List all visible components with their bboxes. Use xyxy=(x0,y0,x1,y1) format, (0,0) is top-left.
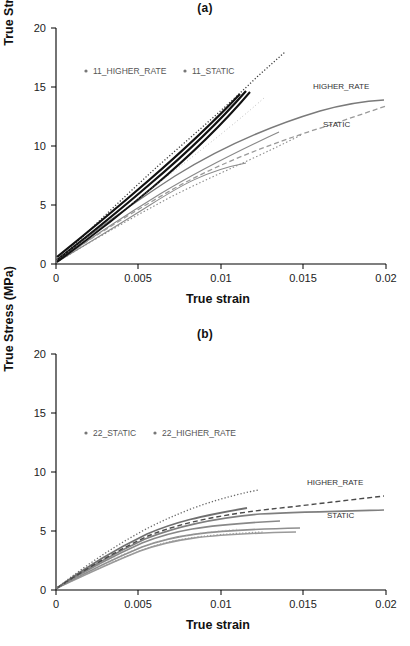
panel-b-annotation-static: STATIC xyxy=(327,511,354,520)
panel-a-legend-label-1: 11_HIGHER_RATE xyxy=(93,66,167,76)
panel-b-title: (b) xyxy=(0,326,410,342)
series-22-static-5 xyxy=(57,532,263,588)
panel-a-ylabel: True Stress (MPa) xyxy=(2,0,16,68)
series-22-higher-rate-1 xyxy=(57,496,384,588)
panel-a-plot: True Stress (MPa) 0 5 10 15 20 xyxy=(0,16,410,306)
panel-b-ytick-0: 0 xyxy=(40,584,46,596)
panel-b-xlabel: True strain xyxy=(0,618,410,632)
series-22-static-3 xyxy=(57,528,300,588)
panel-b-ytick-10: 10 xyxy=(34,466,46,478)
panel-b-legend-label-2: 22_HIGHER_RATE xyxy=(162,428,236,438)
panel-a-annotation-static: STATIC xyxy=(323,120,350,129)
panel-b-xtick-002: 0.02 xyxy=(375,598,396,610)
panel-b-xtick-001: 0.01 xyxy=(210,598,231,610)
series-11-static-1 xyxy=(57,106,386,262)
panel-a-xtick-001: 0.01 xyxy=(210,272,231,284)
panel-b-legend-label-1: 22_STATIC xyxy=(93,428,136,438)
panel-a-xtick-002: 0.02 xyxy=(375,272,396,284)
panel-a-legend-marker-1 xyxy=(84,69,87,72)
panel-a-ytick-10: 10 xyxy=(34,140,46,152)
panel-b-legend-marker-1 xyxy=(84,431,87,434)
panel-a-ytick-5: 5 xyxy=(40,199,46,211)
panel-b-series-group xyxy=(57,490,384,588)
panel-b-ytick-15: 15 xyxy=(34,407,46,419)
panel-b-xtick-0005: 0.005 xyxy=(124,598,152,610)
panel-b-ylabel: True Stress (MPa) xyxy=(2,244,16,394)
panel-b-xtick-0: 0 xyxy=(53,598,59,610)
panel-a-ytick-0: 0 xyxy=(40,258,46,270)
panel-b-annotation-higher-rate: HIGHER_RATE xyxy=(307,478,363,487)
panel-a-ytick-15: 15 xyxy=(34,81,46,93)
series-11-static-2 xyxy=(57,132,279,262)
figure-container: (a) True Stress (MPa) 0 5 10 15 xyxy=(0,0,410,646)
panel-a-legend-marker-2 xyxy=(183,69,186,72)
panel-b-svg: 0 5 10 15 20 0 0.005 0.01 0.015 0.02 xyxy=(0,342,410,632)
panel-b-plot: True Stress (MPa) 0 5 10 15 20 xyxy=(0,342,410,632)
panel-b-ytick-5: 5 xyxy=(40,525,46,537)
panel-a-svg: 0 5 10 15 20 0 0.005 0.01 0.015 0.02 xyxy=(0,16,410,306)
panel-a-legend-label-2: 11_STATIC xyxy=(192,66,235,76)
series-22-static-1 xyxy=(57,510,384,588)
panel-a-xtick-0015: 0.015 xyxy=(289,272,317,284)
panel-a: (a) True Stress (MPa) 0 5 10 15 xyxy=(0,0,410,318)
panel-a-title: (a) xyxy=(0,0,410,16)
panel-a-annotation-higher-rate: HIGHER_RATE xyxy=(313,82,369,91)
panel-b: (b) True Stress (MPa) 0 5 10 15 20 xyxy=(0,326,410,644)
panel-a-xtick-0: 0 xyxy=(53,272,59,284)
panel-a-ytick-20: 20 xyxy=(34,22,46,34)
panel-b-ytick-20: 20 xyxy=(34,348,46,360)
panel-a-xlabel: True strain xyxy=(0,292,410,306)
panel-b-legend-marker-2 xyxy=(153,431,156,434)
panel-a-xtick-0005: 0.005 xyxy=(124,272,152,284)
panel-b-xtick-0015: 0.015 xyxy=(289,598,317,610)
